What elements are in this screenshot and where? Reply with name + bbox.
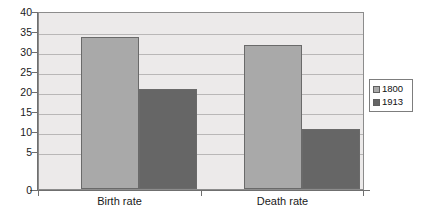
legend-swatch-icon-1800	[373, 86, 380, 93]
y-tick-label-15: 15	[6, 107, 32, 117]
y-tick-5	[32, 152, 38, 153]
y-tick-label-30: 30	[6, 47, 32, 57]
y-tick-15	[32, 112, 38, 113]
y-tick-label-20: 20	[6, 87, 32, 97]
y-tick-40	[32, 12, 38, 13]
y-tick-label-25: 25	[6, 67, 32, 77]
y-axis-line	[37, 12, 38, 191]
bar-death-rate-1913	[302, 129, 360, 189]
bar-chart: 40 35 30 25 20 15 10 5 0 Birth rate Deat…	[0, 0, 436, 216]
legend-label-1913: 1913	[382, 97, 403, 107]
y-tick-20	[32, 92, 38, 93]
x-label-death-rate: Death rate	[201, 194, 364, 208]
bar-death-rate-1800	[244, 45, 302, 189]
y-tick-10	[32, 132, 38, 133]
y-tick-label-35: 35	[6, 27, 32, 37]
y-tick-35	[32, 32, 38, 33]
gridline-35	[39, 34, 363, 35]
plot-area	[38, 12, 364, 190]
y-tick-label-5: 5	[6, 147, 32, 157]
legend-swatch-icon-1913	[373, 99, 380, 106]
legend-item-1913: 1913	[373, 96, 409, 108]
y-tick-30	[32, 52, 38, 53]
y-tick-label-40: 40	[6, 7, 32, 17]
bar-birth-rate-1800	[81, 37, 139, 189]
legend: 1800 1913	[369, 79, 413, 112]
legend-item-1800: 1800	[373, 83, 409, 95]
y-tick-25	[32, 72, 38, 73]
legend-label-1800: 1800	[382, 84, 403, 94]
bar-birth-rate-1913	[139, 89, 197, 189]
y-tick-label-0: 0	[6, 185, 32, 195]
x-axis-line	[30, 190, 370, 191]
y-tick-label-10: 10	[6, 127, 32, 137]
x-label-birth-rate: Birth rate	[38, 194, 201, 208]
